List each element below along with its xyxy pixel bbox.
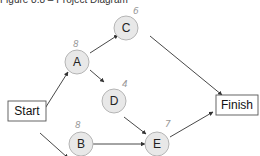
node-b: B 8 [69,120,93,156]
annotation-b: 8 [75,120,81,130]
edge-a-c [90,35,118,53]
start-label: Start [14,104,40,118]
svg-text:E: E [153,137,161,151]
edge-start-b [40,133,68,156]
edges [40,35,222,156]
svg-text:B: B [77,137,85,151]
node-d: D 4 [102,79,128,113]
node-a: A 8 [65,39,89,74]
edge-start-a [44,72,68,110]
start-node: Start [8,101,46,121]
annotation-d: 4 [122,79,128,89]
edge-c-finish [150,36,222,95]
finish-label: Finish [221,98,253,112]
node-c: C 6 [114,6,139,40]
edge-a-d [90,70,104,82]
edge-d-e [124,117,146,134]
svg-text:C: C [122,21,131,35]
project-diagram: Start Finish A 8 C 6 D 4 B 8 E 7 [0,0,260,156]
annotation-c: 6 [133,6,139,16]
svg-text:D: D [110,94,119,108]
finish-node: Finish [216,95,258,115]
node-e: E 7 [145,119,171,156]
annotation-a: 8 [73,39,79,49]
svg-text:A: A [73,55,81,69]
annotation-e: 7 [165,119,171,129]
edge-e-finish [170,112,213,137]
